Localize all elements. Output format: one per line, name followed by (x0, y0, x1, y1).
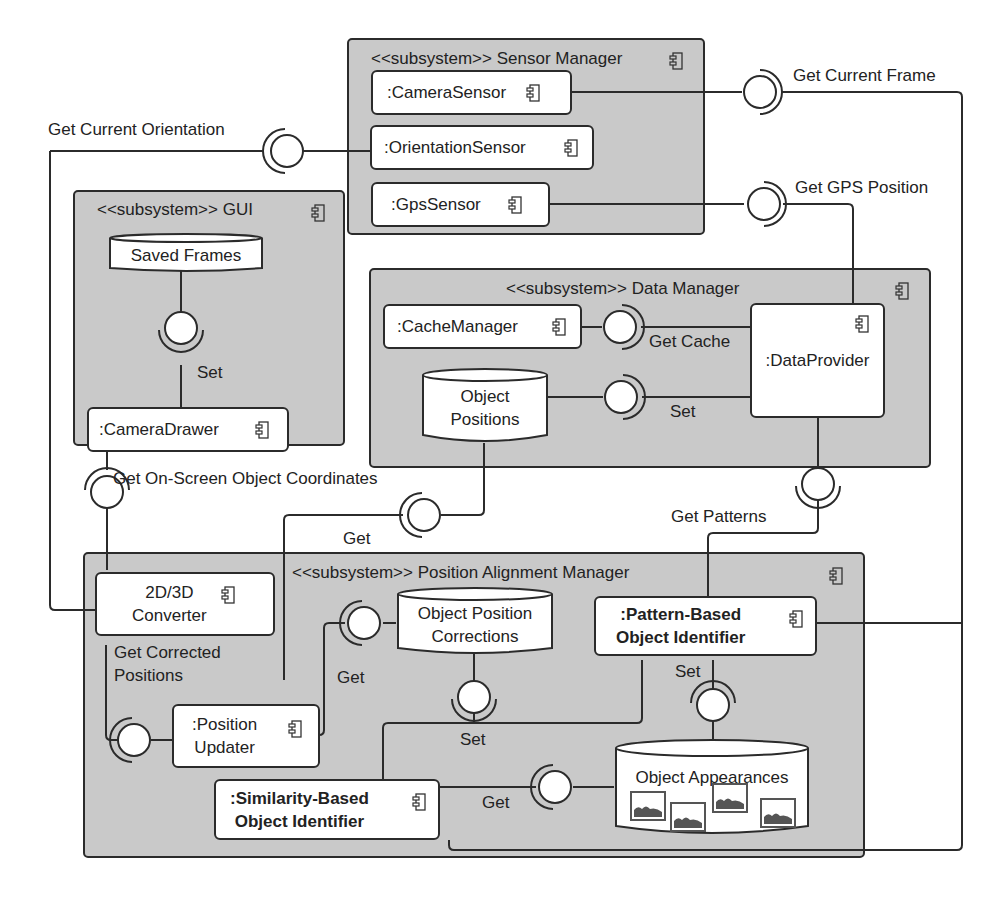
component-icon (412, 793, 426, 811)
component-icon (855, 315, 869, 333)
component-label: :CacheManager (397, 315, 518, 338)
component-2d-3d-converter[interactable]: 2D/3D Converter (95, 572, 275, 636)
interface-label-get-cache: Get Cache (649, 330, 730, 353)
component-gps-sensor[interactable]: :GpsSensor (371, 182, 550, 227)
interface-label-get-corrected-positions: Get Corrected Positions (114, 641, 221, 687)
interface-label-gui-set: Set (197, 361, 223, 384)
component-cache-manager[interactable]: :CacheManager (383, 304, 582, 349)
component-similarity-based-identifier[interactable]: :Similarity-Based Object Identifier (214, 779, 440, 840)
datastore-object-appearances: Object Appearances (614, 738, 810, 838)
component-icon (255, 421, 269, 439)
image-icon (712, 783, 748, 813)
component-label: :DataProvider (766, 349, 870, 372)
component-icon (564, 139, 578, 157)
interface-label-data-set: Set (670, 400, 696, 423)
interface-label-get-current-orientation: Get Current Orientation (48, 118, 225, 141)
component-label: :OrientationSensor (384, 136, 526, 159)
component-label: :Similarity-Based Object Identifier (230, 787, 369, 833)
component-icon (508, 196, 522, 214)
datastore-label: Object Position Corrections (396, 602, 554, 648)
component-label: :CameraDrawer (99, 418, 219, 441)
component-label: :Position Updater (192, 713, 257, 759)
interface-label-set-appearances: Set (675, 660, 701, 683)
datastore-label: Object Positions (421, 385, 549, 431)
component-icon (526, 84, 540, 102)
component-orientation-sensor[interactable]: :OrientationSensor (370, 125, 594, 170)
component-label: :Pattern-Based Object Identifier (616, 603, 745, 649)
datastore-saved-frames: Saved Frames (108, 232, 264, 272)
interface-label-get-gps-position: Get GPS Position (795, 176, 928, 199)
interface-label-get-patterns: Get Patterns (671, 505, 766, 528)
component-position-updater[interactable]: :Position Updater (172, 704, 320, 768)
component-icon (789, 610, 803, 628)
datastore-object-positions: Object Positions (421, 367, 549, 445)
component-icon (288, 720, 302, 738)
component-camera-drawer[interactable]: :CameraDrawer (87, 407, 289, 452)
component-icon (221, 586, 235, 604)
interface-label-get-corrections: Get (337, 666, 364, 689)
datastore-label: Saved Frames (108, 244, 264, 267)
interface-label-set-corrections: Set (460, 728, 486, 751)
component-camera-sensor[interactable]: :CameraSensor (371, 70, 572, 115)
image-icon (630, 791, 666, 821)
component-label: :CameraSensor (387, 81, 506, 104)
interface-label-get-onscreen-coords: Get On-Screen Object Coordinates (113, 467, 378, 490)
image-icon (760, 798, 796, 828)
image-icon (670, 802, 706, 832)
interface-label-get-current-frame: Get Current Frame (793, 64, 936, 87)
component-label: :GpsSensor (391, 193, 481, 216)
component-data-provider[interactable]: :DataProvider (750, 303, 885, 418)
datastore-object-position-corrections: Object Position Corrections (396, 586, 554, 656)
interface-label-get-object-positions: Get (343, 527, 370, 550)
component-icon (552, 318, 566, 336)
component-label: 2D/3D Converter (132, 581, 207, 627)
component-pattern-based-identifier[interactable]: :Pattern-Based Object Identifier (594, 596, 817, 656)
interface-label-get-appearances: Get (482, 791, 509, 814)
